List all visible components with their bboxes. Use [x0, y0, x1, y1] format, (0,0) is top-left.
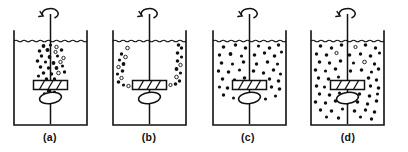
particle: [337, 75, 340, 78]
particle: [178, 79, 181, 82]
particle: [375, 78, 378, 81]
particle: [257, 44, 260, 47]
impeller-disc: [138, 91, 161, 105]
particle: [325, 115, 328, 118]
particle: [279, 72, 282, 75]
particle: [240, 54, 243, 57]
particle: [56, 54, 59, 57]
particle: [54, 50, 57, 53]
particle: [359, 52, 362, 55]
particle: [120, 52, 123, 55]
particle: [319, 44, 323, 48]
particle: [243, 76, 247, 80]
particle: [218, 85, 221, 88]
particle: [176, 59, 180, 63]
particle: [373, 110, 377, 114]
particle: [334, 67, 338, 71]
particle: [222, 45, 226, 49]
particle: [318, 60, 322, 64]
particle: [349, 69, 352, 72]
particle: [175, 67, 179, 71]
particle: [367, 76, 371, 80]
vessel-panel-c: (c): [213, 9, 286, 143]
particle: [62, 56, 65, 59]
particle: [277, 79, 281, 83]
impeller-disc: [39, 91, 62, 105]
particle: [369, 54, 373, 58]
particle: [42, 44, 46, 48]
particle: [124, 55, 128, 59]
particle: [180, 55, 183, 58]
particle: [40, 54, 43, 57]
particle: [270, 85, 273, 88]
panel-caption-a: (a): [43, 131, 57, 143]
particle: [127, 84, 130, 87]
particle: [370, 70, 373, 73]
particle: [61, 64, 64, 67]
particle: [340, 43, 344, 47]
particle: [364, 43, 368, 47]
particle: [37, 74, 40, 77]
particle: [375, 99, 379, 103]
particle: [318, 92, 321, 95]
particle: [117, 65, 120, 68]
particle: [244, 46, 248, 50]
particle: [278, 87, 282, 91]
particle: [220, 61, 224, 65]
particle: [324, 101, 327, 104]
particle: [55, 45, 58, 48]
panel-caption-d: (d): [341, 131, 356, 143]
particle: [57, 71, 61, 75]
particle: [373, 62, 376, 65]
particle: [232, 97, 235, 100]
particle: [180, 46, 183, 49]
particle: [262, 71, 265, 74]
particle: [59, 60, 62, 63]
particle: [217, 69, 220, 72]
particle: [42, 71, 46, 75]
particle: [118, 58, 121, 61]
particle: [374, 46, 377, 49]
particle: [218, 53, 221, 56]
particle: [360, 68, 364, 72]
particle: [253, 53, 257, 57]
particle: [55, 66, 59, 70]
particle: [315, 52, 318, 55]
particle: [38, 49, 42, 53]
particle: [328, 93, 332, 97]
particle: [252, 69, 256, 73]
stirred-tank-figure: (a)(b)(c)(d): [0, 0, 408, 152]
panel-caption-b: (b): [142, 131, 157, 143]
particle: [169, 83, 172, 86]
particle: [179, 71, 182, 74]
particle: [354, 45, 357, 48]
particle: [226, 86, 230, 90]
particle: [369, 84, 372, 87]
particle: [276, 62, 279, 65]
particle: [377, 67, 381, 71]
particle: [255, 62, 258, 65]
particle: [177, 43, 181, 47]
particle: [315, 84, 319, 88]
particle: [179, 63, 182, 66]
particle: [268, 46, 272, 50]
particle: [242, 60, 246, 64]
particle: [378, 51, 381, 54]
particle: [126, 46, 130, 50]
particle: [122, 83, 125, 86]
particle: [339, 59, 343, 63]
particle: [364, 108, 367, 111]
particle: [116, 72, 119, 75]
particle: [370, 117, 373, 120]
particle: [36, 59, 40, 63]
particle: [363, 60, 367, 64]
particle: [366, 102, 369, 105]
particle: [325, 53, 329, 57]
particle: [353, 109, 357, 113]
particle: [319, 108, 322, 111]
particle: [266, 60, 270, 64]
particle: [274, 94, 277, 97]
particle: [341, 107, 344, 110]
particle: [120, 76, 123, 79]
vessel-panel-a: (a): [14, 9, 87, 143]
